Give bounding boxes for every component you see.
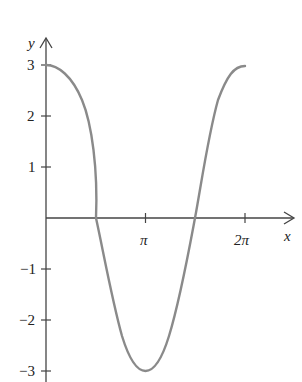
y-tick-label-1: 1	[28, 159, 36, 175]
x-tick-label-2pi: 2π	[234, 232, 250, 248]
y-tick-label-2: 2	[27, 108, 35, 124]
x-axis-label: x	[283, 228, 291, 244]
y-tick-label-neg1: −1	[20, 261, 36, 277]
y-tick-label-neg2: −2	[19, 312, 35, 328]
y-axis-label: y	[26, 35, 35, 51]
y-tick-label-3: 3	[27, 57, 35, 73]
x-tick-label-pi: π	[140, 232, 148, 248]
chart: 3 2 1 −1 −2 −3 π 2π x y	[0, 0, 302, 382]
y-tick-label-neg3: −3	[19, 363, 35, 379]
